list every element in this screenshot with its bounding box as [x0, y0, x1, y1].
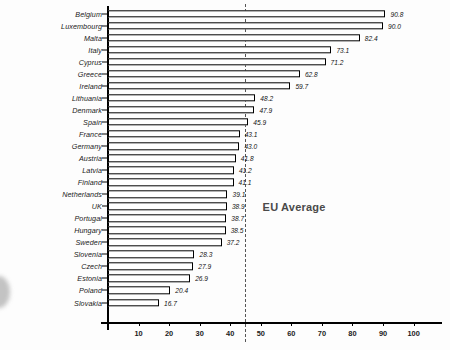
- bar-value-label: 48.2: [260, 95, 273, 102]
- bar-row: Slovakia16.7: [0, 297, 450, 309]
- bar: [108, 106, 254, 113]
- category-label: Slovenia: [74, 250, 102, 259]
- x-axis-line: [101, 322, 442, 324]
- bar-value-label: 43.0: [244, 143, 257, 150]
- bar: [108, 239, 222, 246]
- x-axis-tick-label: 40: [226, 329, 234, 338]
- bar-value-label: 90.8: [390, 10, 403, 17]
- bar: [108, 70, 300, 77]
- x-axis-tick: [169, 322, 170, 326]
- bar-row: Italy73.1: [0, 44, 450, 56]
- bar: [108, 58, 326, 65]
- bar-row: Cyprus71.2: [0, 56, 450, 68]
- bar-row: Spain45.9: [0, 116, 450, 128]
- bar-row: Belgium90.8: [0, 8, 450, 20]
- bar: [108, 142, 239, 149]
- bar-row: Sweden37.2: [0, 237, 450, 249]
- x-axis-tick-label: 30: [196, 329, 204, 338]
- bar-value-label: 38.5: [231, 227, 244, 234]
- bar-value-label: 62.8: [305, 70, 318, 77]
- bar-value-label: 39.1: [232, 191, 245, 198]
- bar-value-label: 43.1: [245, 131, 258, 138]
- category-label: Belgium: [75, 9, 102, 18]
- x-axis-tick-label: 100: [407, 329, 419, 338]
- x-axis-tick: [291, 322, 292, 326]
- category-label: Latvia: [82, 166, 102, 175]
- category-label: Malta: [84, 33, 102, 42]
- bar: [108, 179, 234, 186]
- category-label: Czech: [81, 262, 102, 271]
- x-axis-tick: [261, 322, 262, 326]
- bar: [108, 46, 331, 53]
- bar-value-label: 27.9: [198, 263, 211, 270]
- bar-row: Estonia26.9: [0, 273, 450, 285]
- bar-row: France43.1: [0, 128, 450, 140]
- x-axis-tick-label: 20: [165, 329, 173, 338]
- category-label: Ireland: [79, 81, 102, 90]
- x-axis-tick: [352, 322, 353, 326]
- bar-value-label: 45.9: [253, 119, 266, 126]
- bar-value-label: 73.1: [336, 46, 349, 53]
- bar: [108, 203, 227, 210]
- bar-row: Latvia41.2: [0, 164, 450, 176]
- bar-row: Hungary38.5: [0, 225, 450, 237]
- bar-value-label: 28.3: [199, 251, 212, 258]
- x-axis-tick: [200, 322, 201, 326]
- category-label: Luxembourg: [61, 21, 102, 30]
- category-label: Austria: [79, 154, 102, 163]
- bar-value-label: 47.9: [259, 107, 272, 114]
- bar-row: Luxembourg90.0: [0, 20, 450, 32]
- bar-row: Malta82.4: [0, 32, 450, 44]
- bar: [108, 251, 194, 258]
- bar: [108, 227, 226, 234]
- category-label: France: [79, 130, 102, 139]
- plot-area: EU Average Belgium90.8Luxembourg90.0Malt…: [0, 0, 450, 350]
- bar-value-label: 59.7: [295, 82, 308, 89]
- category-label: Italy: [88, 45, 102, 54]
- origin-tick: [107, 316, 109, 330]
- category-label: Portugal: [74, 214, 102, 223]
- bar-value-label: 38.7: [231, 215, 244, 222]
- bar: [108, 82, 290, 89]
- bar: [108, 94, 255, 101]
- bar-row: Poland20.4: [0, 285, 450, 297]
- category-label: Estonia: [77, 274, 102, 283]
- category-label: UK: [92, 202, 102, 211]
- category-label: Finland: [78, 178, 102, 187]
- bar: [108, 191, 227, 198]
- bar-value-label: 71.2: [331, 58, 344, 65]
- x-axis-tick-label: 70: [318, 329, 326, 338]
- category-label: Spain: [83, 118, 102, 127]
- bar: [108, 118, 248, 125]
- category-label: Cyprus: [79, 57, 102, 66]
- bar: [108, 263, 193, 270]
- bar-row: Greece62.8: [0, 68, 450, 80]
- bar: [108, 215, 226, 222]
- x-axis-tick: [139, 322, 140, 326]
- bar-row: UK38.9: [0, 200, 450, 212]
- bar-value-label: 90.0: [388, 22, 401, 29]
- x-axis-tick: [230, 322, 231, 326]
- bar: [108, 130, 240, 137]
- x-axis-tick-label: 80: [348, 329, 356, 338]
- bar-value-label: 38.9: [232, 203, 245, 210]
- category-label: Slovakia: [74, 298, 102, 307]
- x-axis-tick: [383, 322, 384, 326]
- bar-row: Austria41.8: [0, 152, 450, 164]
- bar: [108, 275, 190, 282]
- bar-row: Czech27.9: [0, 261, 450, 273]
- bar-row: Netherlands39.1: [0, 188, 450, 200]
- category-label: Lithuania: [72, 94, 102, 103]
- category-label: Hungary: [74, 226, 102, 235]
- bar-value-label: 16.7: [164, 299, 177, 306]
- x-axis-tick-label: 90: [379, 329, 387, 338]
- bar-row: Portugal38.7: [0, 213, 450, 225]
- bar-value-label: 82.4: [365, 34, 378, 41]
- bar-row: Slovenia28.3: [0, 249, 450, 261]
- bar: [108, 10, 385, 17]
- x-axis-tick-label: 50: [257, 329, 265, 338]
- x-axis-tick: [414, 322, 415, 326]
- category-label: Greece: [78, 69, 102, 78]
- bar-value-label: 41.2: [239, 167, 252, 174]
- bar: [108, 22, 383, 29]
